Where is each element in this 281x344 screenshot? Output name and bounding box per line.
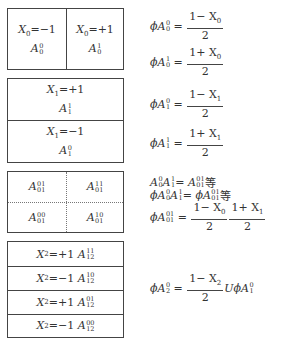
equation-phi-a1-0: ϕA01 = 1− X12 [150, 88, 224, 120]
equation-phi-a0-0: ϕA00 = 1− X02 [150, 10, 224, 42]
x0-partition-box: X0=−1 A00 X0=+1 A10 [7, 8, 124, 70]
grid-cell-01: A0101 [8, 172, 66, 202]
x1-plus-cell: X1=+1 A11 [8, 79, 123, 120]
grid-cell-11: A1101 [67, 172, 123, 202]
equation-phi-a1-1: ϕA11 = 1+ X12 [150, 127, 224, 159]
x2-row: X2=−1 A0012 [8, 314, 123, 337]
x1-minus-cell: X1=−1 A01 [8, 121, 123, 162]
x1-partition-box: X1=+1 A11 X1=−1 A01 [7, 78, 124, 163]
x2-row: X2=−1 A1012 [8, 266, 123, 290]
equation-phi-a0-1: ϕA10 = 1+ X02 [150, 46, 224, 78]
equation-phi-a01: ϕA0101 = 1− X02 1+ X12 [150, 201, 266, 233]
grid-cell-10: A1001 [67, 203, 123, 232]
x0-plus-cell: X0=+1 A10 [67, 9, 123, 69]
x2-rows-box: X2=+1 A1112 X2=−1 A1012 X2=+1 A0112 X2=−… [7, 241, 124, 338]
x2-row: X2=+1 A1112 [8, 242, 123, 266]
x0-minus-cell: X0=−1 A00 [8, 9, 66, 69]
x0x1-grid-box: A0101 A1101 A0001 A1001 [7, 171, 124, 233]
x2-row: X2=+1 A0112 [8, 290, 123, 314]
equation-phi-a2-0: ϕA02 = 1− X22 UϕA01 [150, 272, 254, 304]
grid-cell-00: A0001 [8, 203, 66, 232]
